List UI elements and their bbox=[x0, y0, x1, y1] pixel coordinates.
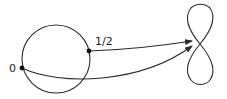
figure-eight bbox=[188, 4, 213, 84]
point-half bbox=[87, 49, 92, 54]
label-half: 1/2 bbox=[95, 36, 113, 47]
arrow-zero-to-crossing bbox=[22, 46, 192, 79]
label-zero: 0 bbox=[9, 63, 16, 74]
diagram-canvas: 0 1/2 bbox=[0, 0, 227, 99]
point-zero bbox=[20, 66, 25, 71]
circle bbox=[22, 25, 90, 93]
diagram-svg bbox=[0, 0, 227, 99]
